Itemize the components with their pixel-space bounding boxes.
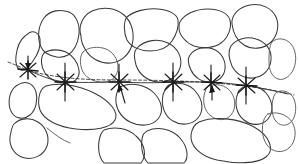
stone-bottom-joint-left <box>47 128 70 143</box>
stone-group-bottom <box>10 113 295 163</box>
marker-3-arrow-icon <box>117 84 123 92</box>
stone-lower-1 <box>9 82 37 118</box>
stone-lower-3 <box>116 84 162 125</box>
stone-top-4 <box>179 9 231 48</box>
stone-bottom-4 <box>191 119 271 163</box>
stone-mid-5 <box>229 38 271 78</box>
figure-root <box>0 0 299 164</box>
stone-lower-2 <box>39 84 116 129</box>
stone-group-lower <box>9 82 296 129</box>
stone-top-5 <box>232 5 278 49</box>
marker-4[interactable] <box>163 63 184 101</box>
marker-1[interactable] <box>18 56 38 79</box>
stone-bottom-2 <box>99 128 145 163</box>
marker-5[interactable] <box>202 65 222 100</box>
stone-mid-3 <box>135 40 181 82</box>
marker-3[interactable] <box>109 64 130 103</box>
stone-lower-4 <box>162 83 202 124</box>
stone-bottom-1 <box>10 119 48 159</box>
stone-masonry-diagram <box>0 0 299 164</box>
stone-mid-2 <box>80 47 118 82</box>
stone-group-top <box>39 5 278 64</box>
stone-bottom-5 <box>262 113 295 152</box>
marker-2[interactable] <box>55 63 76 101</box>
marker-5-arrow-icon <box>209 85 215 93</box>
stone-lower-7 <box>272 91 296 125</box>
marker-6[interactable] <box>236 67 257 104</box>
stone-mid-6 <box>269 39 296 80</box>
stone-bottom-3 <box>142 129 187 163</box>
